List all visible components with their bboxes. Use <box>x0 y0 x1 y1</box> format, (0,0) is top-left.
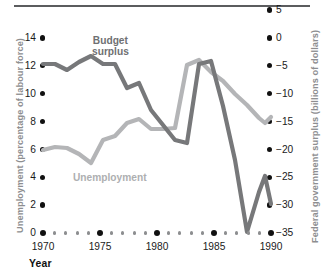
x-axis-dot-1976 <box>110 231 113 234</box>
x-tick-label-1970: 1970 <box>23 241 63 252</box>
annotation-unemployment: Unemployment <box>73 172 147 183</box>
x-axis-dot-1970 <box>40 230 46 236</box>
x-axis-dot-1978 <box>133 231 136 234</box>
x-tick-label-1990: 1990 <box>251 241 291 252</box>
x-axis-dot-1980 <box>154 230 160 236</box>
x-tick-label-1985: 1985 <box>194 241 234 252</box>
annotation-budget-line1: Budget <box>92 35 129 46</box>
series-line-unemployment <box>43 60 271 163</box>
x-axis-dot-1984 <box>201 231 204 234</box>
x-axis-dot-1981 <box>167 231 170 234</box>
x-axis-dot-1971 <box>53 231 56 234</box>
x-axis-dot-1974 <box>87 231 90 234</box>
series-line-budget-surplus <box>43 56 271 232</box>
x-axis-dot-1973 <box>76 231 79 234</box>
annotation-budget-line2: surplus <box>92 46 129 57</box>
x-axis-title: Year <box>29 258 52 269</box>
x-axis-dot-1989 <box>258 231 261 234</box>
x-axis-dot-1990 <box>268 230 274 236</box>
x-axis-dot-1986 <box>224 231 227 234</box>
plot-area <box>0 0 324 279</box>
chart-figure: Unemployment (percentage of labour force… <box>0 0 324 279</box>
x-tick-label-1980: 1980 <box>137 241 177 252</box>
x-axis-dot-1985 <box>211 230 217 236</box>
x-axis-dot-1975 <box>97 230 103 236</box>
x-axis-dot-1979 <box>144 231 147 234</box>
x-axis-dot-1983 <box>190 231 193 234</box>
annotation-budget-surplus: Budget surplus <box>92 35 129 57</box>
x-tick-label-1975: 1975 <box>80 241 120 252</box>
x-axis-dot-1988 <box>247 231 250 234</box>
